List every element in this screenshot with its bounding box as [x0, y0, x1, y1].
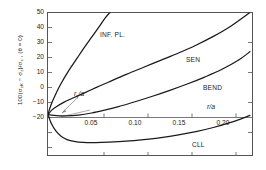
curve-bend: [48, 52, 250, 116]
curve-cll: [48, 115, 250, 143]
data-curves: [48, 12, 250, 143]
plot-frame: [48, 13, 253, 156]
x-tick-marks: [104, 114, 236, 156]
figure-plot-stress-ratio: 100(σzK − σz)/σz , (θ = 0) 50 40 30 20 1…: [0, 0, 266, 170]
y-tick-marks: [48, 13, 253, 148]
curve-inf-pl: [48, 12, 111, 115]
plot-canvas: [0, 0, 266, 170]
curve-sen: [48, 13, 250, 115]
